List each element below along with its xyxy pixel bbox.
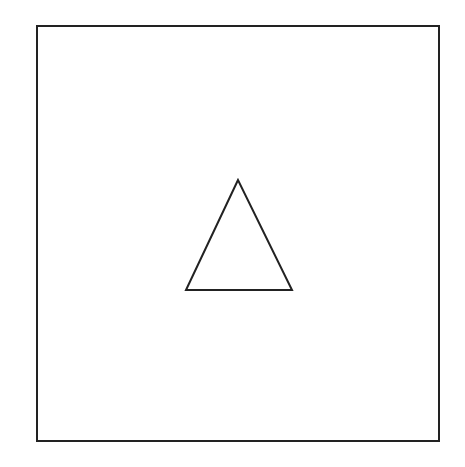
triangle-shape (186, 180, 292, 290)
diagram-canvas (0, 0, 465, 467)
square-frame (37, 26, 439, 441)
